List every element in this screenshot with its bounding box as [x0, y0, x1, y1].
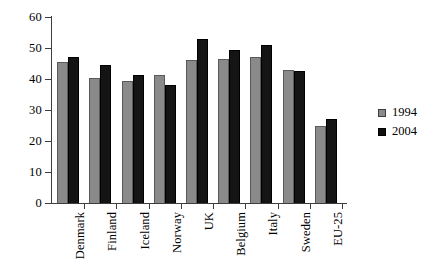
bar-2004: [68, 57, 79, 203]
bar-1994: [89, 78, 100, 203]
bar-1994: [122, 81, 133, 203]
x-axis-category-label: UK: [203, 212, 216, 230]
y-axis-tick: [45, 141, 51, 142]
x-axis-tick: [181, 204, 182, 209]
bar-group: [52, 17, 84, 203]
x-axis-category-label: Italy: [267, 212, 280, 235]
y-axis-tick-label: 30: [16, 104, 42, 117]
bar-group: [213, 17, 245, 203]
bar-group: [116, 17, 148, 203]
x-axis-category-label: Belgium: [235, 212, 248, 256]
legend-label: 2004: [392, 125, 417, 138]
x-axis-tick: [278, 204, 279, 209]
legend-item-2004: 2004: [378, 122, 417, 141]
bar-2004: [229, 50, 240, 203]
y-axis-tick: [45, 79, 51, 80]
x-axis-category-label: Sweden: [300, 212, 313, 252]
y-axis-tick-label: 60: [16, 11, 42, 24]
y-axis-tick: [45, 110, 51, 111]
bar-2004: [326, 119, 337, 203]
chart-legend: 19942004: [378, 103, 417, 141]
bar-1994: [315, 126, 326, 203]
x-axis-tick: [116, 204, 117, 209]
bar-1994: [250, 57, 261, 203]
bar-1994: [218, 59, 229, 203]
x-axis-tick: [245, 204, 246, 209]
bar-2004: [261, 45, 272, 203]
x-axis-category-label: Finland: [106, 212, 119, 251]
y-axis-tick-label: 20: [16, 135, 42, 148]
y-axis-tick-label: 50: [16, 42, 42, 55]
bar-2004: [100, 65, 111, 203]
legend-swatch-icon: [378, 109, 386, 117]
y-axis-tick: [45, 48, 51, 49]
bar-group: [278, 17, 310, 203]
x-axis-tick: [84, 204, 85, 209]
bar-group: [245, 17, 277, 203]
bar-2004: [133, 75, 144, 203]
y-axis-tick-label: 0: [16, 197, 42, 210]
bar-1994: [283, 70, 294, 203]
bar-2004: [197, 39, 208, 203]
bar-group: [310, 17, 342, 203]
bar-1994: [154, 75, 165, 203]
y-axis-tick: [45, 17, 51, 18]
bar-group: [149, 17, 181, 203]
bar-1994: [57, 62, 68, 203]
x-axis-tick: [342, 204, 343, 209]
x-axis-tick: [149, 204, 150, 209]
bar-2004: [294, 71, 305, 203]
y-axis-tick-label: 40: [16, 73, 42, 86]
bar-group: [181, 17, 213, 203]
plot-area: [52, 17, 342, 203]
x-axis-category-label: Iceland: [139, 212, 152, 249]
y-axis-tick: [45, 203, 51, 204]
x-axis-category-label: Norway: [171, 212, 184, 253]
x-axis-category-label: EU-25: [332, 212, 345, 246]
bar-1994: [186, 60, 197, 203]
bar-group: [84, 17, 116, 203]
bar-chart: 0102030405060 DenmarkFinlandIcelandNorwa…: [0, 0, 442, 272]
legend-swatch-icon: [378, 128, 386, 136]
legend-label: 1994: [392, 106, 417, 119]
bar-2004: [165, 85, 176, 203]
x-axis-tick: [213, 204, 214, 209]
y-axis-tick: [45, 172, 51, 173]
x-axis-tick: [310, 204, 311, 209]
x-axis-line: [51, 203, 347, 204]
x-axis-category-label: Denmark: [74, 212, 87, 259]
y-axis-tick-label: 10: [16, 166, 42, 179]
legend-item-1994: 1994: [378, 103, 417, 122]
